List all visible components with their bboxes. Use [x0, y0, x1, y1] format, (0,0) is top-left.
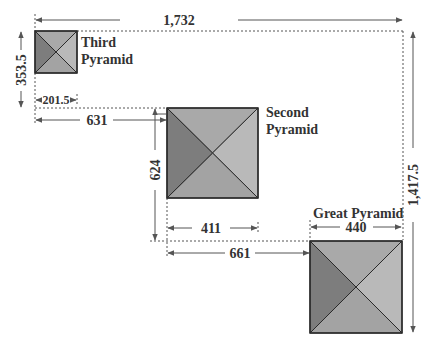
second-offset-horizontal-label: 631 [87, 113, 108, 128]
second-pyramid [167, 108, 258, 198]
total-width-label: 1,732 [163, 13, 195, 28]
great-pyramid [310, 241, 402, 333]
third-offset-vertical-label: 353.5 [14, 54, 29, 86]
total-height-label: 1,417.5 [406, 164, 421, 206]
great-base-label: 440 [346, 220, 367, 235]
second-offset-vertical-label: 624 [148, 160, 163, 181]
second-pyramid-name-line2: Pyramid [266, 122, 318, 137]
great-pyramid-name: Great Pyramid [313, 206, 404, 221]
second-pyramid-name-line1: Second [266, 105, 309, 120]
great-offset-horizontal-label: 661 [230, 246, 251, 261]
third-pyramid-name-line1: Third [81, 35, 116, 50]
pyramid-layout-diagram: Third Pyramid Second Pyramid Great Pyram… [0, 0, 435, 347]
second-base-label: 411 [201, 221, 221, 236]
third-pyramid-name-line2: Pyramid [81, 52, 133, 67]
third-base-label: 201.5 [43, 93, 70, 107]
third-pyramid [35, 31, 77, 73]
